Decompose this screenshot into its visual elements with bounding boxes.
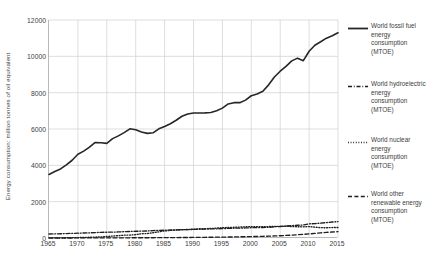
x-axis-tick-label: 1990 xyxy=(185,240,200,247)
y-axis-tick-label: 6000 xyxy=(31,126,46,133)
x-axis-tick-label: 1995 xyxy=(214,240,229,247)
dashdot-line-icon xyxy=(348,82,368,91)
y-axis-tick-label: 10000 xyxy=(27,53,46,60)
legend-item-label: World fossil fuel energy consumption (MT… xyxy=(371,22,426,56)
x-axis-tick-label: 1985 xyxy=(156,240,171,247)
legend-item: World fossil fuel energy consumption (MT… xyxy=(348,22,426,56)
legend-item: World hydroelectric energy consumption (… xyxy=(348,80,426,114)
x-axis-tick-label: 1970 xyxy=(69,240,84,247)
chart-legend: World fossil fuel energy consumption (MT… xyxy=(348,14,426,254)
energy-consumption-line-chart: Energy consumption: million tonnes of oi… xyxy=(0,0,426,266)
y-axis-tick-labels: 020004000600080001000012000 xyxy=(14,0,46,266)
solid-line-icon xyxy=(348,24,368,33)
legend-item-label: World other renewable energy consumption… xyxy=(371,190,426,224)
x-axis-tick-label: 1965 xyxy=(40,240,55,247)
plot-svg xyxy=(49,20,338,238)
x-axis-tick-label: 2000 xyxy=(243,240,258,247)
legend-item: World nuclear energy consumption (MTOE) xyxy=(348,136,426,170)
legend-item-label: World nuclear energy consumption (MTOE) xyxy=(371,136,426,170)
plot-area xyxy=(48,20,337,238)
x-axis-tick-label: 1975 xyxy=(98,240,113,247)
y-axis-tick-label: 8000 xyxy=(31,89,46,96)
x-axis-tick-label: 1980 xyxy=(127,240,142,247)
y-axis-tick-label: 4000 xyxy=(31,162,46,169)
x-axis-tick-label: 2010 xyxy=(301,240,316,247)
dashed-line-icon xyxy=(348,192,368,201)
y-axis-title: Energy consumption: million tonnes of oi… xyxy=(5,52,12,200)
y-axis-tick-label: 2000 xyxy=(31,198,46,205)
legend-item-label: World hydroelectric energy consumption (… xyxy=(371,80,426,114)
x-axis-tick-label: 2005 xyxy=(272,240,287,247)
y-axis-tick-label: 12000 xyxy=(27,17,46,24)
legend-item: World other renewable energy consumption… xyxy=(348,190,426,224)
x-axis-tick-label: 2015 xyxy=(329,240,344,247)
dotted-line-icon xyxy=(348,138,368,147)
